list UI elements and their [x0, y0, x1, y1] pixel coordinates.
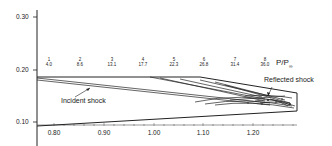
x-tick-label: 0.80: [48, 130, 61, 136]
y-tick-label: 0.10: [16, 119, 29, 125]
contour-level: 28.6: [77, 57, 83, 67]
y-tick-label: 0.30: [16, 14, 29, 20]
contour-level: 417.7: [139, 57, 148, 67]
x-tick-label: 1.00: [148, 130, 161, 136]
incident-shock-label: Incident shock: [61, 98, 106, 104]
contour-level: 522.3: [170, 57, 179, 67]
legend-title: P/P∞: [276, 60, 292, 69]
contour-level: 836.0: [261, 57, 270, 67]
x-tick-label: 0.90: [98, 130, 111, 136]
contour-level: 731.4: [231, 57, 240, 67]
contour-level: 14.0: [46, 57, 52, 67]
x-tick-label: 1.10: [197, 130, 210, 136]
y-tick-label: 0.20: [16, 67, 29, 73]
x-tick-label: 1.20: [247, 130, 260, 136]
contour-plot: [0, 0, 332, 146]
contour-level: 313.1: [108, 57, 117, 67]
contour-level: 626.8: [200, 57, 209, 67]
reflected-shock-label: Reflected shock: [264, 77, 314, 83]
